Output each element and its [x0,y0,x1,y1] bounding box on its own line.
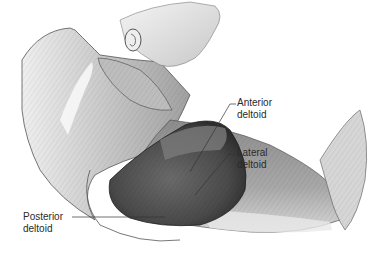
label-posterior-line1: Posterior [23,211,63,223]
label-lateral-deltoid: Lateral deltoid [237,147,268,170]
label-posterior-line2: deltoid [23,223,63,235]
label-anterior-line1: Anterior [237,97,272,109]
head-region [120,2,220,66]
label-anterior-line2: deltoid [237,109,272,121]
label-lateral-line1: Lateral [237,147,268,159]
label-anterior-deltoid: Anterior deltoid [237,97,272,120]
label-lateral-line2: deltoid [237,159,268,171]
label-posterior-deltoid: Posterior deltoid [23,211,63,234]
